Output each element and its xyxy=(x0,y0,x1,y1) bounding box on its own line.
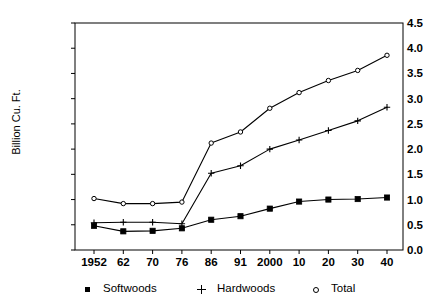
marker-plus-icon xyxy=(267,146,273,152)
legend-item-softwoods[interactable]: Softwoods xyxy=(82,283,157,295)
marker-open-circle-icon xyxy=(268,106,272,110)
marker-filled-square-icon xyxy=(150,228,155,233)
legend-marker-open-circle-icon xyxy=(310,283,322,295)
marker-filled-square-icon xyxy=(355,196,360,201)
marker-open-circle-icon xyxy=(356,68,360,72)
marker-plus-icon xyxy=(355,118,361,124)
marker-filled-square-icon xyxy=(267,206,272,211)
marker-open-circle-icon xyxy=(121,201,125,205)
marker-open-circle-icon xyxy=(238,130,242,134)
marker-open-circle-icon xyxy=(209,141,213,145)
series-total xyxy=(92,53,389,206)
marker-plus-icon xyxy=(384,104,390,110)
line-chart-plot xyxy=(0,0,423,306)
series-hardwoods xyxy=(91,104,390,227)
marker-filled-square-icon xyxy=(297,199,302,204)
marker-open-circle-icon xyxy=(92,196,96,200)
legend-label: Softwoods xyxy=(103,283,157,295)
marker-open-circle-icon xyxy=(150,201,154,205)
marker-filled-square-icon xyxy=(209,217,214,222)
marker-plus-icon xyxy=(325,127,331,133)
chart-legend: SoftwoodsHardwoodsTotal xyxy=(0,282,423,302)
legend-marker-plus-icon xyxy=(196,283,208,295)
marker-filled-square-icon xyxy=(121,229,126,234)
marker-open-circle-icon xyxy=(180,200,184,204)
marker-plus-icon xyxy=(120,219,126,225)
legend-label: Total xyxy=(331,283,355,295)
legend-item-hardwoods[interactable]: Hardwoods xyxy=(196,283,275,295)
marker-plus-icon xyxy=(237,163,243,169)
marker-plus-icon xyxy=(296,137,302,143)
marker-filled-square-icon xyxy=(326,197,331,202)
marker-plus-icon xyxy=(149,219,155,225)
marker-open-circle-icon xyxy=(326,78,330,82)
marker-open-circle-icon xyxy=(385,53,389,57)
marker-filled-square-icon xyxy=(384,195,389,200)
chart-screenshot: Billion Cu. Ft. 0.00.51.01.52.02.53.03.5… xyxy=(0,0,423,306)
legend-label: Hardwoods xyxy=(217,283,275,295)
marker-filled-square-icon xyxy=(238,214,243,219)
legend-item-total[interactable]: Total xyxy=(310,283,355,295)
marker-plus-icon xyxy=(208,170,214,176)
legend-marker-filled-square-icon xyxy=(82,283,94,295)
series-softwoods xyxy=(91,195,389,234)
marker-open-circle-icon xyxy=(297,90,301,94)
